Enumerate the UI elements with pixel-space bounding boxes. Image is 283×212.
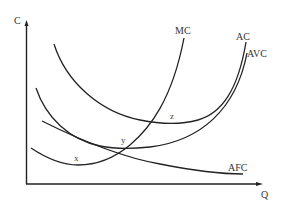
afc-label: AFC (228, 162, 248, 173)
ac-curve (54, 42, 246, 123)
y-axis-arrow-icon (25, 20, 29, 26)
y-axis-label: C (14, 15, 21, 26)
point-x-label: x (74, 153, 79, 163)
avc-label: AVC (247, 48, 267, 59)
x-axis-arrow-icon (256, 182, 263, 186)
mc-curve (31, 38, 184, 165)
point-y-label: y (121, 135, 126, 145)
x-axis-label: Q (261, 189, 269, 200)
point-z-label: z (170, 111, 174, 121)
ac-label: AC (236, 31, 250, 42)
cost-curves-diagram: C Q AC AVC MC AFC x y z (0, 0, 283, 212)
mc-label: MC (175, 25, 191, 36)
